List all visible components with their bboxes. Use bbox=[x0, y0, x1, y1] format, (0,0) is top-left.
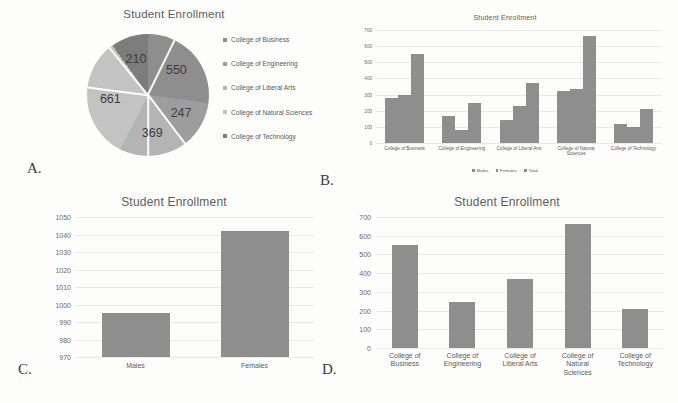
legend-label[interactable]: Males bbox=[477, 168, 489, 173]
bar[interactable] bbox=[221, 231, 289, 357]
x-axis-tick-label[interactable]: Females bbox=[201, 362, 308, 370]
gridline[interactable] bbox=[376, 273, 664, 274]
bar[interactable] bbox=[102, 313, 170, 357]
bar[interactable] bbox=[526, 83, 539, 143]
gridline[interactable] bbox=[376, 217, 664, 218]
legend-label[interactable]: College of Natural Sciences bbox=[231, 109, 312, 116]
pie-data-label[interactable]: 210 bbox=[126, 52, 147, 66]
legend-label[interactable]: Females bbox=[500, 168, 517, 173]
x-axis-tick-label[interactable]: College of Engineering bbox=[435, 146, 489, 151]
legend-item[interactable]: Males bbox=[472, 168, 488, 173]
legend-swatch[interactable] bbox=[472, 169, 475, 172]
gridline[interactable] bbox=[76, 217, 314, 218]
gridline[interactable] bbox=[376, 236, 664, 237]
y-axis-tick-label[interactable]: 700 bbox=[346, 28, 372, 33]
bar[interactable] bbox=[455, 130, 468, 143]
y-axis-tick-label[interactable]: 100 bbox=[345, 326, 371, 333]
bar[interactable] bbox=[570, 89, 583, 143]
bar[interactable] bbox=[442, 116, 455, 143]
y-axis-tick-label[interactable]: 100 bbox=[346, 124, 372, 129]
x-axis-tick-label[interactable]: College of Business bbox=[377, 146, 431, 151]
bar[interactable] bbox=[565, 224, 591, 348]
y-axis-tick-label[interactable]: 200 bbox=[345, 307, 371, 314]
y-axis-tick-label[interactable]: 700 bbox=[345, 214, 371, 221]
y-axis-tick-label[interactable]: 500 bbox=[345, 251, 371, 258]
bar[interactable] bbox=[468, 103, 481, 143]
x-axis-tick-label[interactable]: College of Business bbox=[380, 352, 429, 369]
x-axis-tick-label[interactable]: College of Natural Sciences bbox=[553, 352, 602, 377]
pie-data-label[interactable]: 661 bbox=[100, 92, 121, 106]
legend-label[interactable]: Total bbox=[529, 168, 538, 173]
legend-item[interactable]: College of Technology bbox=[223, 126, 335, 146]
bar[interactable] bbox=[557, 91, 570, 143]
y-axis-tick-label[interactable]: 1000 bbox=[41, 301, 71, 308]
x-axis-tick-label[interactable]: College of Liberal Arts bbox=[492, 146, 546, 151]
x-axis-tick-label[interactable]: College of Technology bbox=[606, 146, 660, 151]
legend-label[interactable]: College of Business bbox=[231, 36, 289, 43]
x-axis-tick-label[interactable]: College of Technology bbox=[611, 352, 660, 369]
y-axis-tick-label[interactable]: 300 bbox=[346, 92, 372, 97]
x-axis-tick-label[interactable]: College of Engineering bbox=[438, 352, 487, 369]
bar[interactable] bbox=[640, 109, 653, 143]
panel-label-c: C. bbox=[18, 361, 32, 378]
bar[interactable] bbox=[500, 120, 513, 143]
legend-swatch[interactable] bbox=[524, 169, 527, 172]
x-axis-tick-label[interactable]: Males bbox=[82, 362, 189, 370]
bar[interactable] bbox=[627, 127, 640, 143]
y-axis-tick-label[interactable]: 300 bbox=[345, 288, 371, 295]
y-axis-tick-label[interactable]: 1030 bbox=[41, 249, 71, 256]
bar[interactable] bbox=[385, 98, 398, 143]
pie-data-label[interactable]: 550 bbox=[166, 63, 187, 77]
legend-swatch[interactable] bbox=[223, 62, 227, 66]
gridline[interactable] bbox=[376, 348, 664, 349]
gridline[interactable] bbox=[376, 30, 662, 31]
bar[interactable] bbox=[507, 279, 533, 348]
pie-data-label[interactable]: 369 bbox=[142, 126, 163, 140]
gridline[interactable] bbox=[376, 143, 662, 144]
bar[interactable] bbox=[392, 245, 418, 348]
legend-label[interactable]: College of Engineering bbox=[231, 60, 298, 67]
legend-item[interactable]: Total bbox=[524, 168, 538, 173]
bar[interactable] bbox=[614, 124, 627, 143]
legend-swatch[interactable] bbox=[496, 169, 499, 172]
x-axis-tick-label[interactable]: College of Liberal Arts bbox=[496, 352, 545, 369]
bar[interactable] bbox=[583, 36, 596, 143]
bar[interactable] bbox=[398, 95, 411, 143]
y-axis-tick-label[interactable]: 200 bbox=[346, 108, 372, 113]
y-axis-tick-label[interactable]: 990 bbox=[41, 319, 71, 326]
y-axis-tick-label[interactable]: 0 bbox=[345, 345, 371, 352]
legend-swatch[interactable] bbox=[223, 38, 227, 42]
y-axis-tick-label[interactable]: 1050 bbox=[41, 214, 71, 221]
gridline[interactable] bbox=[376, 46, 662, 47]
legend-item[interactable]: College of Natural Sciences bbox=[223, 102, 335, 122]
gridline[interactable] bbox=[376, 254, 664, 255]
legend-swatch[interactable] bbox=[223, 110, 227, 114]
y-axis-tick-label[interactable]: 0 bbox=[346, 141, 372, 146]
legend-item[interactable]: College of Business bbox=[223, 30, 335, 50]
y-axis-tick-label[interactable]: 400 bbox=[346, 76, 372, 81]
legend-item[interactable]: College of Engineering bbox=[223, 54, 335, 74]
bar[interactable] bbox=[449, 302, 475, 348]
y-axis-tick-label[interactable]: 600 bbox=[345, 232, 371, 239]
pie-data-label[interactable]: 247 bbox=[171, 106, 192, 120]
x-axis-tick-label[interactable]: College of Natural Sciences bbox=[549, 146, 603, 157]
bar[interactable] bbox=[411, 54, 424, 143]
legend-swatch[interactable] bbox=[223, 86, 227, 90]
y-axis-tick-label[interactable]: 1020 bbox=[41, 266, 71, 273]
bar[interactable] bbox=[513, 106, 526, 143]
y-axis-tick-label[interactable]: 600 bbox=[346, 44, 372, 49]
legend-swatch[interactable] bbox=[223, 134, 227, 138]
y-axis-tick-label[interactable]: 1040 bbox=[41, 231, 71, 238]
y-axis-tick-label[interactable]: 400 bbox=[345, 270, 371, 277]
legend-item[interactable]: College of Liberal Arts bbox=[223, 78, 335, 98]
legend-label[interactable]: College of Liberal Arts bbox=[231, 84, 296, 91]
legend-label[interactable]: College of Technology bbox=[231, 133, 296, 140]
y-axis-tick-label[interactable]: 970 bbox=[41, 354, 71, 361]
y-axis-tick-label[interactable]: 1010 bbox=[41, 284, 71, 291]
panel-label-d: D. bbox=[322, 361, 337, 378]
bar[interactable] bbox=[622, 309, 648, 348]
y-axis-tick-label[interactable]: 500 bbox=[346, 60, 372, 65]
y-axis-tick-label[interactable]: 980 bbox=[41, 336, 71, 343]
gridline[interactable] bbox=[76, 357, 314, 358]
legend-item[interactable]: Females bbox=[496, 168, 517, 173]
